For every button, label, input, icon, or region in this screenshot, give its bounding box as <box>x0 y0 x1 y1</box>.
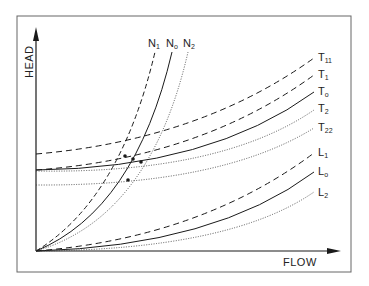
operating-point-marker <box>139 160 143 164</box>
label-t11: T11 <box>318 51 332 64</box>
curve-t2 <box>36 110 314 171</box>
label-l0: Lo <box>318 165 328 178</box>
operating-point-marker <box>126 178 130 182</box>
label-t0: To <box>318 85 329 98</box>
x-axis-arrow-icon <box>327 248 341 254</box>
curve-t0 <box>36 92 314 170</box>
curve-t1 <box>36 75 314 170</box>
y-axis-label: HEAD <box>23 45 35 78</box>
label-n0: No <box>166 37 178 50</box>
curve-l1 <box>36 153 314 251</box>
label-l2: L2 <box>318 186 328 199</box>
label-t1: T1 <box>318 68 329 81</box>
x-axis-label: FLOW <box>283 256 317 268</box>
operating-point-marker <box>131 157 135 161</box>
operating-point-marker <box>123 154 127 158</box>
curve-t22 <box>36 128 314 185</box>
label-l1: L1 <box>318 146 328 159</box>
curve-l2 <box>36 192 314 251</box>
pump-system-curve-diagram: HEAD FLOW N1 No N2 T11 T1 To T2 T22 L1 L… <box>0 0 369 286</box>
label-t2: T2 <box>318 102 329 115</box>
label-n1: N1 <box>148 37 160 50</box>
label-n2: N2 <box>183 37 195 50</box>
curve-l0 <box>36 172 314 251</box>
label-t22: T22 <box>318 121 333 134</box>
curve-t11 <box>36 58 314 154</box>
y-axis-arrow-icon <box>33 27 39 41</box>
